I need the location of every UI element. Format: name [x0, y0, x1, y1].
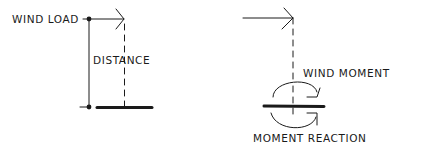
left-panel-wind-load-distance: WIND LOAD DISTANCE — [12, 9, 152, 109]
base-point-dot — [87, 105, 92, 110]
moment-reaction-arc-icon — [271, 113, 316, 128]
wind-moment-arc-icon — [273, 82, 317, 97]
right-panel-wind-moment: WIND MOMENT MOMENT REACTION — [243, 8, 390, 144]
moment-reaction-label: MOMENT REACTION — [253, 132, 367, 144]
distance-label: DISTANCE — [93, 54, 150, 66]
wind-load-diagram: WIND LOAD DISTANCE WIND MOMENT MOM — [0, 0, 422, 150]
wind-load-label: WIND LOAD — [12, 13, 79, 25]
wind-moment-label: WIND MOMENT — [303, 67, 390, 79]
wind-moment-arrowhead-icon — [307, 88, 320, 97]
ground-line-right — [264, 106, 324, 107]
